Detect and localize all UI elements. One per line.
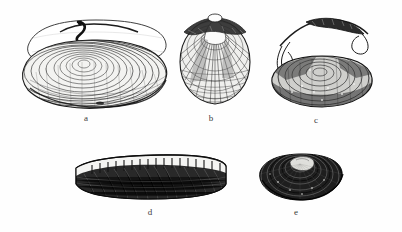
figure-c-shell (266, 12, 376, 112)
figure-caption-a: a (76, 113, 96, 123)
figure-d-shell (72, 150, 230, 204)
figure-a-shell (14, 8, 174, 113)
figure-e-shell (254, 150, 346, 204)
figure-caption-d: d (140, 207, 160, 217)
hinge-band-detail (184, 14, 246, 35)
figure-caption-e: e (286, 207, 306, 217)
illustration-plate: a (0, 0, 402, 232)
figure-caption-c: c (306, 115, 326, 125)
figure-b-shell (176, 10, 254, 110)
figure-caption-b: b (201, 113, 221, 123)
